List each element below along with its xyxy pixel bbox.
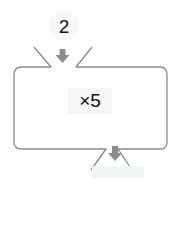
down-arrow-icon-output (108, 146, 122, 161)
output-answer-box[interactable] (92, 166, 144, 178)
operation-label: ×5 (68, 89, 112, 113)
down-arrow-icon-input (56, 49, 70, 63)
